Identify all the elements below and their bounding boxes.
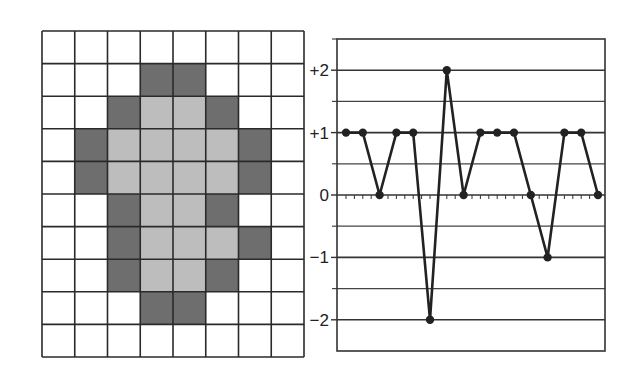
data-point (443, 66, 451, 74)
data-point (577, 128, 585, 136)
y-tick-label: +1 (310, 124, 329, 143)
data-point (409, 128, 417, 136)
data-point (560, 128, 568, 136)
data-point (493, 128, 501, 136)
data-point (342, 128, 350, 136)
data-point (527, 191, 535, 199)
y-tick-label: 0 (320, 186, 329, 205)
y-tick-label: −2 (310, 311, 329, 330)
data-point (392, 128, 400, 136)
data-point (375, 191, 383, 199)
data-point (426, 316, 434, 324)
data-point (543, 253, 551, 261)
y-tick-label: −1 (310, 248, 329, 267)
data-point (359, 128, 367, 136)
data-point (594, 191, 602, 199)
data-point (476, 128, 484, 136)
data-point (459, 191, 467, 199)
data-point (510, 128, 518, 136)
y-tick-label: +2 (310, 61, 329, 80)
line-chart: +2+10−1−2 (0, 0, 634, 379)
